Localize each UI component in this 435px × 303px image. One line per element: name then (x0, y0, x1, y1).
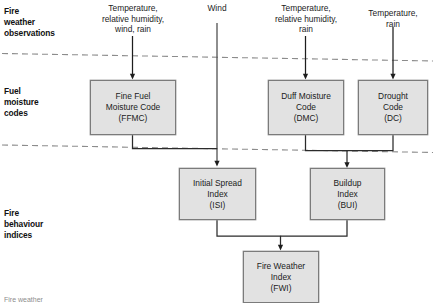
row-label-fire-behaviour-indices: Fire behaviour indices (4, 208, 43, 242)
input-label-dc: Temperature, rain (351, 8, 435, 29)
node-bui[interactable]: Buildup Index (BUI) (310, 168, 385, 220)
wire-ffmc-to-isi (133, 135, 218, 149)
node-fwi-label: Fire Weather Index (FWI) (257, 261, 305, 294)
wire-bui-to-fwi (281, 220, 348, 236)
wire-isi-to-fwi (217, 220, 281, 248)
node-dc[interactable]: Drought Code (DC) (358, 80, 428, 135)
node-ffmc[interactable]: Fine Fuel Moisture Code (FFMC) (90, 80, 176, 135)
node-fwi[interactable]: Fire Weather Index (FWI) (243, 251, 319, 303)
node-bui-label: Buildup Index (BUI) (334, 178, 362, 211)
figure-caption: Fire weather (4, 296, 43, 303)
wire-dmc-to-bui (306, 135, 348, 165)
node-dmc-label: Duff Moisture Code (DMC) (281, 91, 331, 124)
divider-fuel-behaviour (2, 145, 433, 153)
node-isi-label: Initial Spread Index (ISI) (193, 178, 242, 211)
input-label-ffmc: Temperature, relative humidity, wind, ra… (83, 3, 183, 35)
node-isi[interactable]: Initial Spread Index (ISI) (179, 168, 256, 220)
input-label-wind: Wind (186, 3, 248, 14)
wire-dc-to-bui (347, 135, 393, 151)
node-dmc[interactable]: Duff Moisture Code (DMC) (268, 80, 344, 135)
row-label-fire-weather-observations: Fire weather observations (4, 6, 55, 40)
divider-weather-fuel (2, 54, 433, 62)
input-label-dmc: Temperature, relative humidity, rain (257, 3, 355, 35)
row-label-fuel-moisture-codes: Fuel moisture codes (4, 86, 39, 120)
node-dc-label: Drought Code (DC) (378, 91, 408, 124)
node-ffmc-label: Fine Fuel Moisture Code (FFMC) (106, 91, 160, 124)
